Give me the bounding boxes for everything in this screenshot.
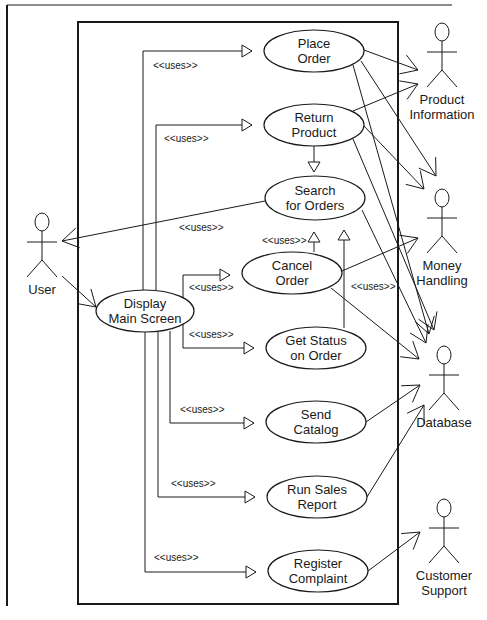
uses-stereotype-label: <<uses>> — [180, 404, 225, 415]
use-case-search-orders[interactable]: Searchfor Orders — [265, 176, 365, 220]
stick-figure-icon — [27, 213, 57, 277]
uses-relation-display_main-to-return_product — [156, 119, 252, 290]
uses-stereotype-label: <<uses>> — [189, 329, 234, 340]
open-arrowhead-icon — [401, 385, 420, 402]
actor-label: Product — [420, 92, 465, 107]
use-case-run-sales-report[interactable]: Run SalesReport — [267, 476, 367, 518]
generalization-arrow-icon — [220, 269, 230, 281]
generalization-arrow-icon — [244, 342, 254, 354]
uses-stereotype-label: <<uses>> — [179, 222, 224, 233]
use-case-diagram: PlaceOrderReturnProductSearchfor OrdersC… — [0, 0, 487, 620]
use-case-get-status[interactable]: Get Statuson Order — [266, 327, 366, 369]
use-case-register-complaint[interactable]: RegisterComplaint — [268, 550, 368, 592]
use-case-label: Complaint — [289, 571, 348, 586]
actor-product-information[interactable]: ProductInformation — [409, 23, 474, 122]
actor-money-handling[interactable]: MoneyHandling — [416, 189, 467, 288]
uses-relation-display_main-to-register_complaint — [145, 332, 256, 578]
association-send_catalog-to-database — [366, 385, 420, 422]
generalization-arrow-icon — [244, 417, 254, 429]
uses-relation-display_main-to-place_order — [143, 45, 252, 290]
use-case-label: Get Status — [285, 333, 347, 348]
actors: UserProductInformationMoneyHandlingDatab… — [27, 23, 475, 598]
association-return_product-to-database — [353, 139, 437, 330]
use-case-label: Send — [301, 407, 331, 422]
use-case-label: Place — [298, 36, 331, 51]
actor-label: Support — [421, 583, 467, 598]
use-case-label: Main Screen — [109, 311, 182, 326]
open-arrowhead-icon — [419, 157, 436, 176]
use-case-display-main[interactable]: DisplayMain Screen — [96, 290, 194, 332]
use-case-label: Report — [297, 497, 336, 512]
use-case-send-catalog[interactable]: SendCatalog — [266, 401, 366, 443]
use-case-return-product[interactable]: ReturnProduct — [264, 104, 364, 146]
use-case-label: Catalog — [294, 422, 339, 437]
actor-label: Customer — [416, 568, 473, 583]
use-case-label: for Orders — [286, 198, 345, 213]
use-case-label: Cancel — [272, 258, 313, 273]
open-arrowhead-icon — [410, 324, 428, 343]
association-register_complaint-to-customer_support — [368, 532, 420, 571]
actor-user[interactable]: User — [27, 213, 57, 297]
stick-figure-icon — [429, 346, 459, 410]
actor-label: Handling — [416, 273, 467, 288]
use-case-label: Order — [297, 51, 331, 66]
use-case-label: Run Sales — [287, 482, 347, 497]
uses-stereotype-label: <<uses>> — [154, 552, 199, 563]
use-case-label: on Order — [290, 348, 342, 363]
uses-relation-return_product-to-search_orders — [308, 146, 320, 172]
actor-label: User — [28, 282, 56, 297]
stick-figure-icon — [429, 499, 459, 563]
generalization-arrow-icon — [308, 162, 320, 172]
generalization-arrow-icon — [242, 45, 252, 57]
generalization-arrow-icon — [242, 119, 252, 131]
actor-customer-support[interactable]: CustomerSupport — [416, 499, 473, 598]
actor-label: Database — [416, 415, 472, 430]
use-cases: PlaceOrderReturnProductSearchfor OrdersC… — [96, 30, 368, 592]
generalization-arrow-icon — [338, 230, 350, 240]
uses-stereotype-label: <<uses>> — [262, 235, 307, 246]
generalization-arrow-icon — [246, 566, 256, 578]
stick-figure-icon — [427, 189, 457, 253]
use-case-place-order[interactable]: PlaceOrder — [264, 30, 364, 72]
actor-database[interactable]: Database — [416, 346, 472, 430]
actor-label: Money — [422, 258, 462, 273]
uses-stereotype-label: <<uses>> — [171, 478, 216, 489]
use-case-label: Return — [294, 110, 333, 125]
uses-stereotype-label: <<uses>> — [189, 282, 234, 293]
use-case-label: Order — [275, 273, 309, 288]
actor-label: Information — [409, 107, 474, 122]
association-return_product-to-product_information — [353, 81, 418, 111]
uses-stereotype-label: <<uses>> — [351, 281, 396, 292]
generalization-arrow-icon — [245, 491, 255, 503]
uses-relation-cancel_order-to-search_orders — [308, 232, 320, 252]
uses-stereotype-label: <<uses>> — [164, 133, 209, 144]
use-case-label: Display — [124, 296, 167, 311]
stick-figure-icon — [427, 23, 457, 87]
use-case-cancel-order[interactable]: CancelOrder — [242, 252, 342, 294]
uses-stereotype-label: <<uses>> — [153, 60, 198, 71]
page-frame — [7, 5, 452, 606]
use-case-label: Register — [294, 556, 343, 571]
generalization-arrow-icon — [308, 232, 320, 242]
use-case-label: Product — [292, 125, 337, 140]
use-case-label: Search — [294, 183, 335, 198]
association-search_orders-to-user — [62, 201, 265, 248]
association-place_order-to-product_information — [364, 50, 418, 74]
